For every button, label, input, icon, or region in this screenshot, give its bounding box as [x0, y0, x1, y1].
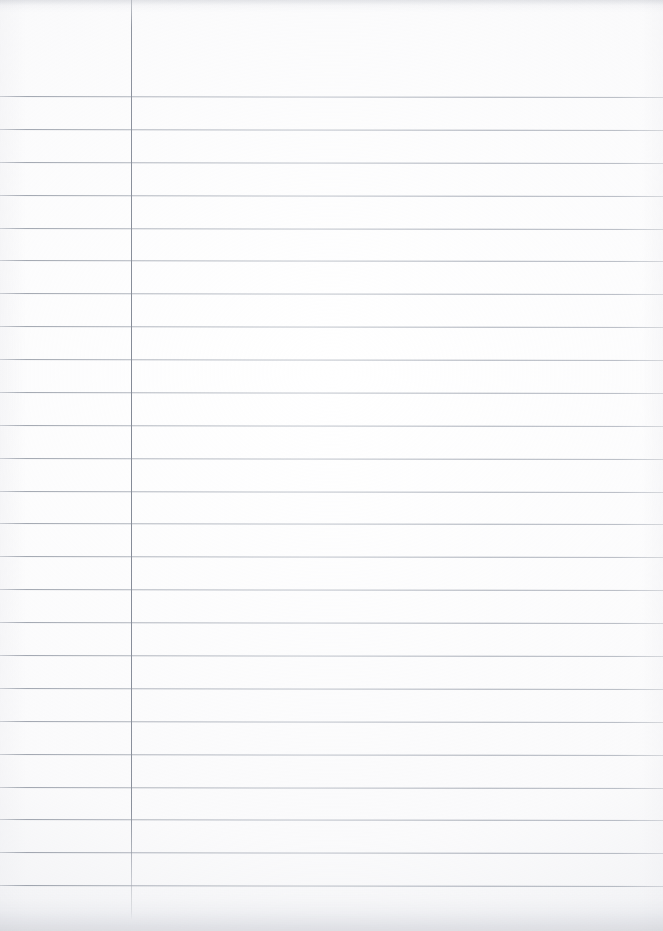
scanned-paper-page: [0, 0, 663, 931]
ruled-line: [0, 885, 663, 887]
page-body-text: [132, 96, 133, 97]
left-margin-column: [0, 96, 131, 885]
writing-area: [132, 96, 663, 885]
